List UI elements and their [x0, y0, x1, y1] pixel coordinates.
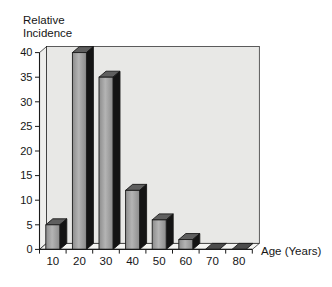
bar-group-20: [72, 47, 93, 250]
bar-side-face: [140, 184, 147, 249]
bar-side-face: [166, 214, 173, 250]
x-tick-label: 60: [179, 255, 192, 267]
x-axis-title: Age (Years): [261, 245, 321, 257]
bar-side-face: [60, 219, 67, 250]
bar-group-50: [152, 214, 173, 250]
bar-front-face: [126, 190, 140, 249]
x-tick-label: 20: [73, 255, 86, 267]
bar-front-face: [179, 240, 193, 250]
bar-front-face: [72, 53, 86, 250]
bar-front-face: [152, 220, 166, 250]
y-tick-label: 15: [20, 169, 32, 181]
x-tick-label: 80: [233, 255, 246, 267]
y-tick-label: 30: [20, 96, 32, 108]
y-tick-label: 10: [20, 194, 32, 206]
y-tick-label: 25: [20, 120, 32, 132]
bar-front-face: [99, 77, 113, 249]
bar-front-face: [46, 225, 60, 250]
y-tick-label: 5: [26, 219, 32, 231]
y-tick-label: 40: [20, 46, 32, 58]
y-tick-label: 35: [20, 71, 32, 83]
y-axis-title: Relative Incidence: [23, 14, 72, 40]
y-tick-label: 0: [26, 243, 32, 255]
x-tick-label: 70: [206, 255, 219, 267]
x-tick-label: 50: [153, 255, 166, 267]
bar-group-40: [126, 184, 147, 249]
bar-side-face: [86, 47, 93, 250]
y-axis-title-line1: Relative: [23, 14, 72, 27]
x-tick-label: 40: [126, 255, 139, 267]
bar-side-face: [113, 71, 120, 249]
y-tick-label: 20: [20, 145, 32, 157]
bar-chart-canvas: 05101520253035401020304050607080: [0, 0, 332, 287]
x-tick-label: 10: [46, 255, 59, 267]
bar-group-30: [99, 71, 120, 249]
wall-left-face: [40, 47, 47, 250]
figure: 05101520253035401020304050607080 Relativ…: [0, 0, 332, 287]
y-axis-title-line2: Incidence: [23, 27, 72, 40]
x-tick-label: 30: [100, 255, 113, 267]
bar-group-10: [46, 219, 67, 250]
